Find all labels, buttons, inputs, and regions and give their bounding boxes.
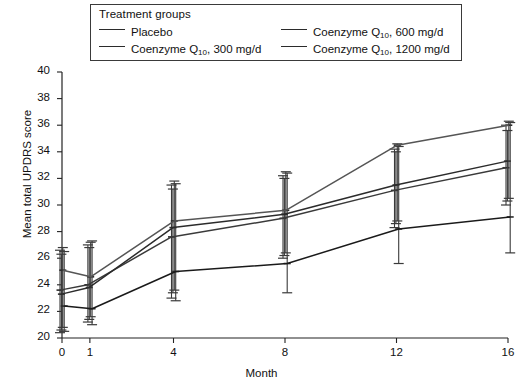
x-tick-label: 4 [159,346,189,358]
y-tick-label: 26 [26,250,50,262]
y-tick-label: 24 [26,277,50,289]
y-tick-label: 40 [26,64,50,76]
x-tick-label: 0 [47,346,77,358]
figure-container: Treatment groups Placebo Coenzyme Q10, 6… [0,0,523,388]
x-tick-label: 1 [75,346,105,358]
x-tick-label: 8 [270,346,300,358]
y-tick-label: 28 [26,224,50,236]
x-tick-label: 16 [493,346,523,358]
y-tick-label: 36 [26,117,50,129]
y-tick-label: 20 [26,330,50,342]
y-tick-label: 30 [26,197,50,209]
y-tick-label: 22 [26,303,50,315]
y-tick-label: 34 [26,144,50,156]
y-tick-label: 38 [26,91,50,103]
x-tick-label: 12 [382,346,412,358]
y-tick-label: 32 [26,170,50,182]
plot-area [0,0,523,388]
